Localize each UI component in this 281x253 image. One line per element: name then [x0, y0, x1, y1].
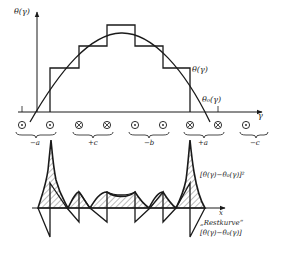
group-label-plus-c: +c	[88, 140, 98, 147]
conductor-dot-icon	[18, 121, 25, 128]
bottom-plot	[32, 140, 225, 237]
brace-plus-a	[184, 132, 224, 138]
conductor-dot-icon	[131, 121, 138, 128]
conductor-cross-icon	[103, 121, 110, 128]
residual-curve	[38, 183, 205, 237]
brace-plus-c	[73, 132, 113, 138]
brace-minus-b	[129, 132, 169, 138]
group-label-minus-c: −c	[250, 140, 260, 147]
x-axis-label: x	[219, 210, 223, 217]
fundamental-curve	[30, 33, 210, 122]
mmf-harmonics-diagram: θ(γ) θ(γ) θ₀(γ) γ −a +c −b +a −c [θ(γ)−θ…	[0, 0, 281, 253]
diagram-canvas	[0, 0, 281, 253]
squared-error-label: [θ(γ)−θ₀(γ)]²	[200, 172, 245, 179]
fundamental-curve-label: θ₀(γ)	[202, 96, 221, 104]
y-axis-label: θ(γ)	[14, 8, 30, 16]
conductor-dot-icon	[242, 121, 249, 128]
group-label-plus-a: +a	[198, 140, 208, 147]
conductor-cross-icon	[75, 121, 82, 128]
top-plot	[18, 12, 262, 122]
brace-minus-c	[240, 132, 268, 138]
conductor-row	[16, 121, 268, 138]
step-curve-label: θ(γ)	[192, 66, 208, 74]
conductor-dot-icon	[159, 121, 166, 128]
gamma-axis-label: γ	[258, 112, 263, 120]
conductor-dot-icon	[46, 121, 53, 128]
conductor-cross-icon	[214, 121, 221, 128]
brace-minus-a	[16, 132, 56, 138]
step-curve	[50, 25, 190, 112]
residual-label: [θ(γ)−θ₀(γ)]	[200, 230, 242, 237]
conductor-cross-icon	[186, 121, 193, 128]
group-label-minus-a: −a	[30, 140, 40, 147]
squared-error-area	[38, 140, 205, 208]
group-label-minus-b: −b	[144, 140, 154, 147]
residual-title: „Restkurve“	[200, 220, 243, 227]
